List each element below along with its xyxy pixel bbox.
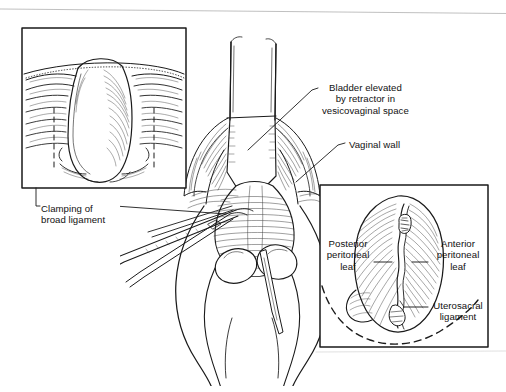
illustration-canvas [0, 0, 506, 392]
label-clamping-broad-ligament: Clamping of broad ligament [41, 203, 105, 226]
label-posterior-peritoneal-leaf: Posterior peritoneal leaf [322, 238, 374, 272]
label-vaginal-wall: Vaginal wall [349, 139, 400, 150]
label-anterior-peritoneal-leaf: Anterior peritoneal leaf [430, 238, 486, 272]
surgical-illustration-figure: Bladder elevated by retractor in vesicov… [0, 0, 506, 392]
label-bladder-elevated: Bladder elevated by retractor in vesicov… [322, 82, 409, 116]
label-uterosacral-ligament: Uterosacral ligament [430, 300, 486, 323]
leader-vaginal-wall [296, 143, 345, 182]
uterine-fundus [68, 59, 132, 183]
leader-clamping [115, 206, 226, 214]
scan-artifact-line-lower [316, 351, 506, 352]
scan-artifact-line [0, 9, 506, 14]
leader-inset-to-clamping-label [36, 188, 40, 206]
